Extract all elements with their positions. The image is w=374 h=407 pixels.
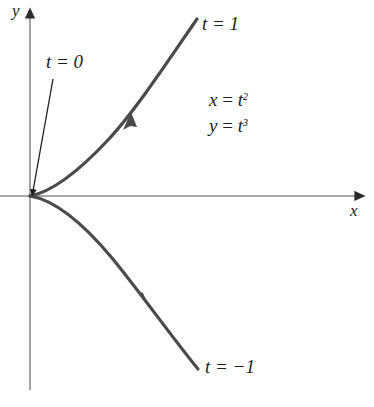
direction-arrow-lower-icon [137, 291, 152, 306]
t-one-label: t = 1 [202, 14, 239, 33]
parametric-curve-figure: y x t = 0 t = 1 t = −1 x = t2 y = t3 [0, 0, 374, 407]
curve-upper-branch [30, 19, 197, 196]
y-axis-label: y [12, 2, 20, 19]
equation-y-exponent: 3 [243, 117, 248, 128]
equation-x: x = t2 [209, 90, 248, 116]
t-zero-leader-arrow [33, 79, 53, 191]
equation-x-operator: = [217, 89, 237, 110]
x-axis-label: x [350, 202, 358, 219]
equation-x-exponent: 2 [243, 91, 248, 102]
equation-y: y = t3 [209, 116, 248, 142]
equation-x-base: t [238, 89, 243, 110]
equation-y-operator: = [217, 115, 237, 136]
t-zero-label: t = 0 [46, 52, 83, 71]
parametric-equations: x = t2 y = t3 [209, 90, 248, 142]
curve-lower-branch [30, 196, 198, 369]
equation-y-base: t [238, 115, 243, 136]
t-minus-one-label: t = −1 [205, 357, 255, 376]
